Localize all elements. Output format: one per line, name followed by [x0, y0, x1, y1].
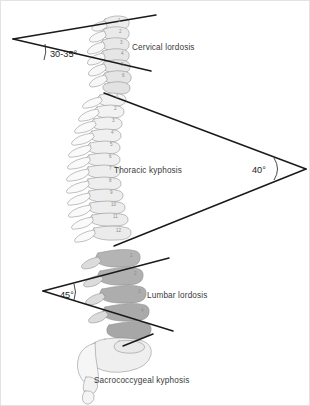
- vertebra-c7: [103, 82, 130, 94]
- vertebra-t11: [90, 213, 128, 226]
- thoracic-upper-endplate-line: [104, 93, 306, 169]
- lumbar-number: 4: [141, 308, 144, 313]
- vertebra-t10-process: [69, 205, 92, 217]
- vertebra-l3-process: [86, 293, 106, 305]
- thoracic-lower-endplate-line: [114, 169, 306, 246]
- thoracic-number: 7: [109, 166, 112, 171]
- vertebra-t11-process: [72, 217, 94, 229]
- lumbar-number: 3: [138, 289, 141, 294]
- vertebra-t8: [86, 177, 121, 190]
- vertebra-t4: [89, 129, 121, 142]
- cervical-number: 4: [121, 51, 124, 56]
- vertebra-t5: [87, 141, 120, 154]
- cervical-number: 5: [121, 62, 124, 67]
- vertebra-t2: [94, 105, 124, 118]
- cervical-lordosis-label: Cervical lordosis: [132, 43, 195, 52]
- vertebra-t9-process: [68, 193, 91, 205]
- vertebra-t12: [92, 226, 131, 240]
- thoracic-number: 9: [110, 190, 113, 195]
- cervical-number: 6: [122, 73, 125, 78]
- thoracic-number: 8: [109, 178, 112, 183]
- vertebra-t6-process: [68, 157, 91, 169]
- cervical-lower-endplate-line: [13, 39, 151, 71]
- vertebra-l5: [107, 321, 151, 339]
- thoracic-angle-label: 40°: [252, 165, 266, 175]
- lumbar-vertebrae-group: [82, 249, 152, 339]
- cervical-upper-endplate-line: [13, 15, 156, 39]
- cervical-vertebrae-group: [87, 16, 131, 94]
- thoracic-number: 3: [112, 118, 115, 123]
- vertebra-t9: [87, 189, 123, 202]
- spine-curvature-figure: 30-35° 40° 45° 1 2 3 4 5 6 1: [0, 0, 310, 406]
- lumbar-number: 2: [134, 271, 137, 276]
- vertebra-t12-process: [75, 230, 96, 242]
- lumbar-angle-label: 45°: [60, 290, 74, 300]
- vertebra-t5-process: [69, 145, 92, 157]
- sacrococcygeal-group: [77, 338, 151, 404]
- sacral-promontory: [114, 340, 145, 353]
- vertebra-t7-process: [67, 169, 90, 181]
- cervical-number: 2: [119, 29, 122, 34]
- lumbar-lordosis-label: Lumbar lordosis: [147, 291, 208, 300]
- vertebra-t8-process: [67, 181, 90, 193]
- coccyx-lower: [82, 391, 94, 404]
- spine-illustration: 30-35° 40° 45° 1 2 3 4 5 6 1: [1, 1, 310, 406]
- cervical-number: 3: [120, 40, 123, 45]
- vertebra-l1-process: [82, 257, 102, 269]
- thoracic-kyphosis-label: Thoracic kyphosis: [114, 166, 182, 175]
- lumbar-angle-arc: [74, 284, 76, 300]
- vertebra-t3: [91, 117, 122, 130]
- thoracic-number: 12: [116, 228, 122, 233]
- sacrococcygeal-kyphosis-label: Sacrococcygeal kyphosis: [94, 376, 189, 385]
- thoracic-number: 6: [109, 154, 112, 159]
- thoracic-number: 2: [114, 106, 117, 111]
- vertebra-t6: [86, 153, 120, 166]
- thoracic-number: 10: [111, 202, 117, 207]
- thoracic-number: 4: [111, 130, 114, 135]
- vertebra-l1: [96, 249, 140, 267]
- lumbar-number: 1: [130, 253, 133, 258]
- thoracic-number: 1: [116, 94, 119, 99]
- thoracic-number: 5: [110, 142, 113, 147]
- cervical-number: 1: [118, 18, 121, 23]
- thoracic-angle-arc: [274, 158, 278, 180]
- vertebra-l4-process: [89, 311, 109, 323]
- thoracic-number: 11: [113, 214, 118, 219]
- cervical-angle-label: 30-35°: [50, 49, 77, 59]
- vertebra-t10: [88, 201, 125, 214]
